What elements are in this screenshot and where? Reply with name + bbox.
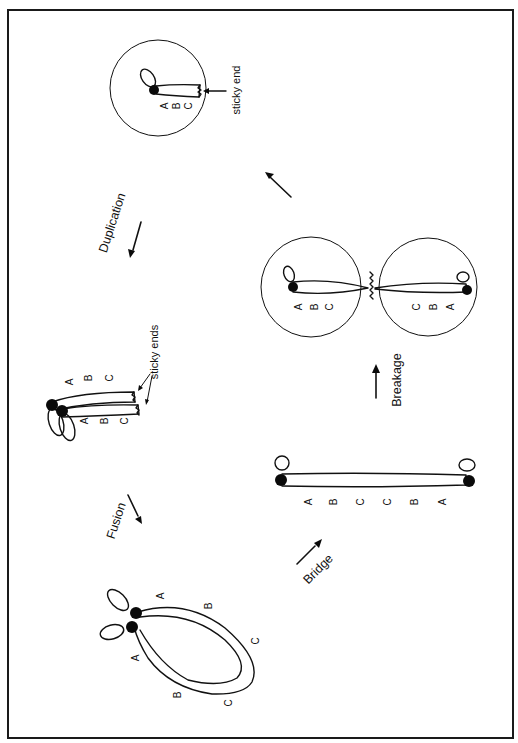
arrow-line <box>297 546 315 564</box>
gene-label-a: A <box>155 592 166 599</box>
centromere <box>130 607 142 619</box>
sticky-end-label: sticky end <box>230 66 242 115</box>
gene-label-b: B <box>328 498 339 505</box>
centromere <box>46 399 58 411</box>
gene-label-a: A <box>303 498 314 505</box>
gene-label-a: A <box>159 102 170 109</box>
gene-label-b: B <box>428 303 439 310</box>
stage-fusion: Fusion <box>104 495 142 541</box>
gene-label-c: C <box>223 699 234 706</box>
arrow-head-icon <box>135 516 142 524</box>
arrow-head-icon <box>372 364 380 373</box>
gene-label-c: C <box>183 102 194 109</box>
sticky-ends-label: sticky ends <box>148 324 160 379</box>
centromere <box>56 405 68 417</box>
loop-inner <box>140 616 241 684</box>
single-chromatid-cell: A B C sticky end <box>110 40 242 136</box>
centromere-left <box>275 474 287 486</box>
stage-bridge: Bridge <box>297 539 336 587</box>
figure-frame <box>8 10 513 738</box>
gene-label-c: C <box>104 374 115 381</box>
stage-duplication: Duplication <box>96 191 141 258</box>
gene-label-a: A <box>130 654 141 661</box>
gene-label-b: B <box>99 417 110 424</box>
chromosome-arm-short <box>459 459 475 471</box>
arrow-head-icon <box>128 249 135 258</box>
chromosome-arm-short <box>99 622 126 642</box>
chromatid <box>156 85 200 97</box>
gene-label-b: B <box>309 303 320 310</box>
arrow-line <box>133 222 141 250</box>
fusion-label: Fusion <box>104 501 129 541</box>
gene-label-a: A <box>79 417 90 424</box>
gene-label-b: B <box>171 102 182 109</box>
gene-label-c: C <box>324 303 335 310</box>
gene-label-b: B <box>409 498 420 505</box>
gene-label-a: A <box>445 303 456 310</box>
centromere <box>149 85 159 95</box>
breakage-jagged <box>370 272 373 299</box>
chromosome-arm-short <box>282 265 297 283</box>
chromosome-arm-short <box>457 272 469 282</box>
centromere-right <box>462 285 472 295</box>
gene-label-b: B <box>83 374 94 381</box>
duplication-label: Duplication <box>96 191 128 254</box>
chromosome-arm-short <box>104 586 132 614</box>
gene-label-c: C <box>355 498 366 505</box>
gene-label-c: C <box>250 637 261 644</box>
fused-loop: A B C A B C <box>99 586 261 707</box>
arrow-breakage-to-cell <box>265 172 291 197</box>
gene-label-c: C <box>382 498 393 505</box>
gene-label-c: C <box>411 303 422 310</box>
chromatid-left <box>293 281 368 293</box>
arrow-line <box>270 177 291 197</box>
arrow-head-icon <box>145 399 149 405</box>
daughter-cells: A B C C B A <box>261 237 477 337</box>
gene-label-c: C <box>119 417 130 424</box>
centromere-right <box>463 475 475 487</box>
centromere-left <box>288 282 298 292</box>
arrow-head-icon <box>265 172 274 179</box>
daughter-cell-right <box>379 238 477 336</box>
gene-label-a: A <box>64 378 75 385</box>
gene-label-a: A <box>437 498 448 505</box>
arrow-line <box>128 495 138 516</box>
chromosome-arm-short <box>275 456 289 470</box>
bridge-chromatid <box>282 473 466 487</box>
centromere <box>126 621 138 633</box>
gene-label-b: B <box>172 691 183 698</box>
stage-breakage: Breakage <box>372 353 404 407</box>
arrow-head-icon <box>138 385 143 391</box>
bridge-label: Bridge <box>300 551 335 586</box>
bfb-cycle-diagram: A B C sticky end Duplication A B C C B <box>0 0 518 743</box>
dicentric-bridge: A B C C B A <box>275 456 475 506</box>
breakage-label: Breakage <box>390 353 404 407</box>
gene-label-a: A <box>293 303 304 310</box>
sister-chromatids: A B C A B C sticky ends <box>45 324 160 442</box>
chromatid-right <box>375 283 467 292</box>
daughter-cell-left <box>261 237 361 337</box>
gene-label-b: B <box>203 602 214 609</box>
